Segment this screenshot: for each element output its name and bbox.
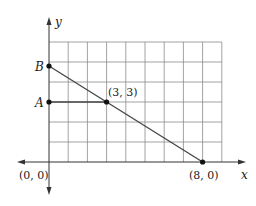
point-8-0-label: (8, 0): [189, 169, 219, 182]
x-axis-label: x: [241, 168, 248, 182]
x-axis-left-arrow-icon: [17, 160, 25, 165]
point-a-label: A: [34, 96, 44, 110]
y-axis-label: y: [54, 15, 62, 29]
x-axis: [17, 160, 246, 165]
y-axis-up-arrow-icon: [47, 17, 52, 25]
x-axis-right-arrow-icon: [238, 160, 246, 165]
coordinate-diagram: y x B A (3, 3) (8, 0) (0, 0): [0, 0, 256, 206]
point-b: [46, 63, 51, 68]
y-axis-down-arrow-icon: [47, 187, 52, 195]
point-b-label: B: [34, 60, 44, 74]
origin-label: (0, 0): [19, 169, 49, 182]
point-8-0: [200, 159, 205, 164]
point-3-3-label: (3, 3): [108, 86, 138, 99]
point-3-3: [104, 99, 109, 104]
point-a: [46, 99, 51, 104]
